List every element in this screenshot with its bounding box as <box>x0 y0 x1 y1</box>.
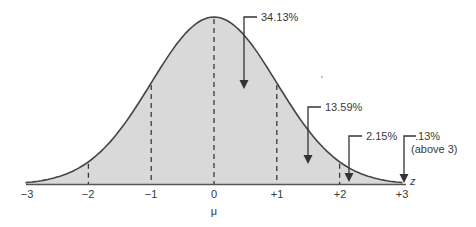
tick-label-minus1: −1 <box>145 188 158 200</box>
tick-label-minus2: −2 <box>82 188 95 200</box>
stray-mark <box>321 76 323 78</box>
annotation-34-13: 34.13% <box>261 11 298 23</box>
annotation-2-15: 2.15% <box>366 130 397 142</box>
tick-label-plus1: +1 <box>271 188 284 200</box>
annotation-13-59: 13.59% <box>325 101 362 113</box>
tick-label-minus3: −3 <box>21 188 34 200</box>
annotation-above-3: (above 3) <box>411 143 457 155</box>
tick-label-0: 0 <box>211 188 217 200</box>
z-axis-label: z <box>410 175 416 187</box>
arrow-0-13 <box>404 136 416 176</box>
tick-label-plus2: +2 <box>334 188 347 200</box>
mu-label: μ <box>211 205 217 217</box>
tick-label-plus3: +3 <box>396 188 409 200</box>
annotation-0-13: .13% <box>415 130 440 142</box>
